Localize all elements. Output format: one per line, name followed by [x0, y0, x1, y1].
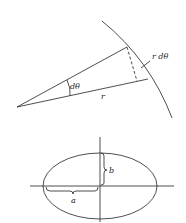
semi-minor-brace	[101, 153, 107, 185]
upper-radius-line	[17, 47, 127, 107]
lower-radius-line	[17, 79, 148, 107]
arc-element-label: r dθ	[152, 52, 168, 61]
semi-major-label: a	[71, 196, 76, 205]
sector-figure	[17, 21, 172, 118]
ellipse-figure	[30, 137, 174, 222]
semi-minor-label: b	[109, 166, 114, 175]
angle-label: dθ	[70, 82, 80, 91]
radius-label: r	[101, 92, 106, 101]
dashed-chord	[127, 47, 137, 81]
semi-major-brace	[46, 187, 98, 194]
circle-arc	[102, 21, 172, 118]
diagram-canvas: dθ r r dθ a b	[0, 0, 186, 223]
